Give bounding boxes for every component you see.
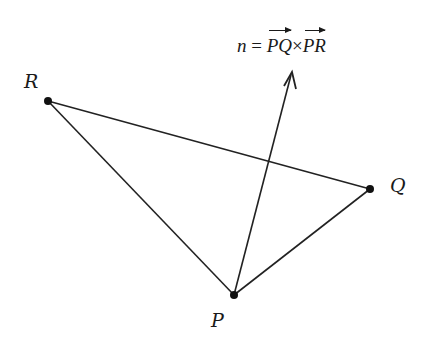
formula-n: n	[237, 35, 247, 56]
label-p: P	[211, 311, 224, 330]
edge-r-q	[48, 101, 370, 189]
point-p	[230, 291, 238, 299]
triangle-diagram	[0, 0, 426, 344]
normal-vector-formula: n = PQ×PR	[237, 36, 326, 55]
label-r: R	[24, 72, 38, 91]
point-q	[366, 185, 374, 193]
formula-equals: =	[251, 35, 262, 56]
edge-p-q	[234, 189, 370, 295]
formula-vector-pq: PQ	[267, 36, 292, 55]
edge-r-p	[48, 101, 234, 295]
label-q: Q	[390, 176, 406, 195]
normal-vector-shaft	[234, 75, 291, 295]
formula-cross: ×	[292, 35, 303, 56]
point-r	[44, 97, 52, 105]
formula-vector-pr: PR	[303, 36, 326, 55]
